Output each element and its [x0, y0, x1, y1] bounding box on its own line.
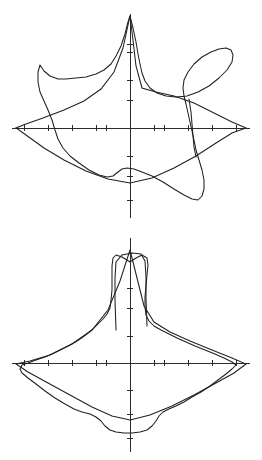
lower-polar-plot-figure — [0, 230, 262, 460]
lower-traces-group — [16, 250, 246, 433]
upper-polar-plot-figure — [0, 0, 262, 230]
lower-flat-top-spike — [115, 253, 147, 330]
lower-polar-plot-svg — [0, 230, 262, 460]
lower-smooth-contour — [20, 255, 236, 433]
upper-polar-plot-svg — [0, 0, 262, 230]
